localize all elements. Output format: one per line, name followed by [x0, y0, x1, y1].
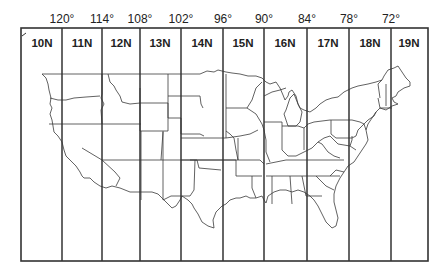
longitude-label-102: 102° [169, 12, 194, 26]
longitude-label-84: 84° [298, 12, 316, 26]
longitude-label-78: 78° [340, 12, 358, 26]
zone-label-12n: 12N [110, 37, 131, 49]
utm-zone-grid [21, 28, 428, 261]
zone-label-18n: 18N [359, 37, 380, 49]
corner-tick [22, 33, 26, 36]
utm-zone-map: 120° 114° 108° 102° 96° 90° 84° 78° 72° … [0, 0, 446, 276]
zone-label-16n: 16N [274, 37, 295, 49]
longitude-label-90: 90° [255, 12, 273, 26]
zone-label-14n: 14N [191, 37, 212, 49]
zone-label-15n: 15N [232, 37, 253, 49]
longitude-label-72: 72° [382, 12, 400, 26]
zone-label-10n: 10N [31, 37, 52, 49]
zone-label-19n: 19N [398, 37, 419, 49]
us-state-outlines [42, 66, 410, 228]
longitude-label-96: 96° [214, 12, 232, 26]
map-frame [21, 28, 428, 261]
longitude-label-120: 120° [50, 12, 75, 26]
zone-label-17n: 17N [317, 37, 338, 49]
zone-label-11n: 11N [72, 37, 92, 49]
longitude-label-114: 114° [90, 12, 114, 26]
longitude-label-108: 108° [128, 12, 153, 26]
zone-label-13n: 13N [149, 37, 170, 49]
